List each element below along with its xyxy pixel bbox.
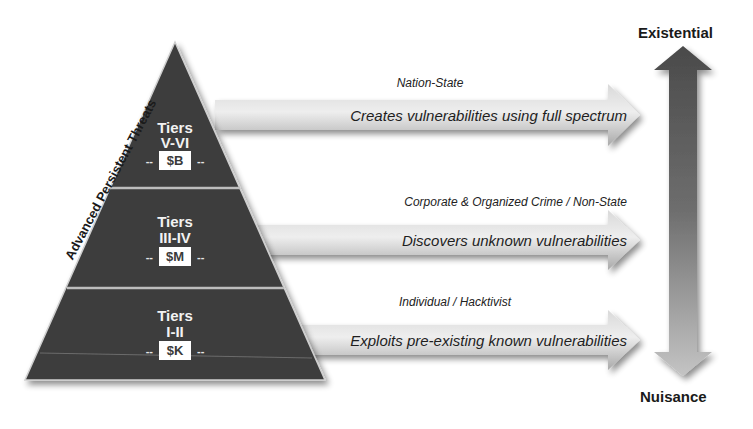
arrow-desc-individual: Exploits pre-existing known vulnerabilit…	[300, 332, 627, 349]
arrow-desc-nation-state: Creates vulnerabilities using full spect…	[260, 107, 627, 124]
tier-middle-cost-badge: $M	[159, 247, 191, 266]
actor-individual: Individual / Hacktivist	[360, 295, 550, 309]
dash-left: --	[146, 251, 153, 263]
tier-top-cost-badge: $B	[159, 151, 191, 170]
tier-bottom-cost-badge: $K	[159, 341, 191, 360]
diagram-canvas	[0, 0, 753, 429]
dash-right: --	[197, 155, 204, 167]
actor-nation-state: Nation-State	[330, 76, 530, 90]
tier-middle-title: Tiers	[115, 214, 235, 230]
tier-bottom-range: I-II	[115, 324, 235, 340]
arrow-desc-corporate: Discovers unknown vulnerabilities	[300, 232, 627, 249]
tier-top-range: V-VI	[115, 135, 235, 151]
tier-middle-range: III-IV	[115, 230, 235, 246]
dash-right: --	[197, 251, 204, 263]
dash-right: --	[197, 345, 204, 357]
tier-top-cost-row: -- $B --	[115, 151, 235, 170]
tier-bottom-title: Tiers	[115, 308, 235, 324]
dash-left: --	[146, 155, 153, 167]
scale-bottom-label: Nuisance	[640, 388, 707, 405]
dash-left: --	[146, 345, 153, 357]
scale-arrow	[654, 46, 712, 376]
actor-corporate: Corporate & Organized Crime / Non-State	[300, 195, 627, 209]
tier-bottom-cost-row: -- $K --	[115, 341, 235, 360]
tier-middle-cost-row: -- $M --	[115, 247, 235, 266]
scale-top-label: Existential	[638, 24, 713, 41]
